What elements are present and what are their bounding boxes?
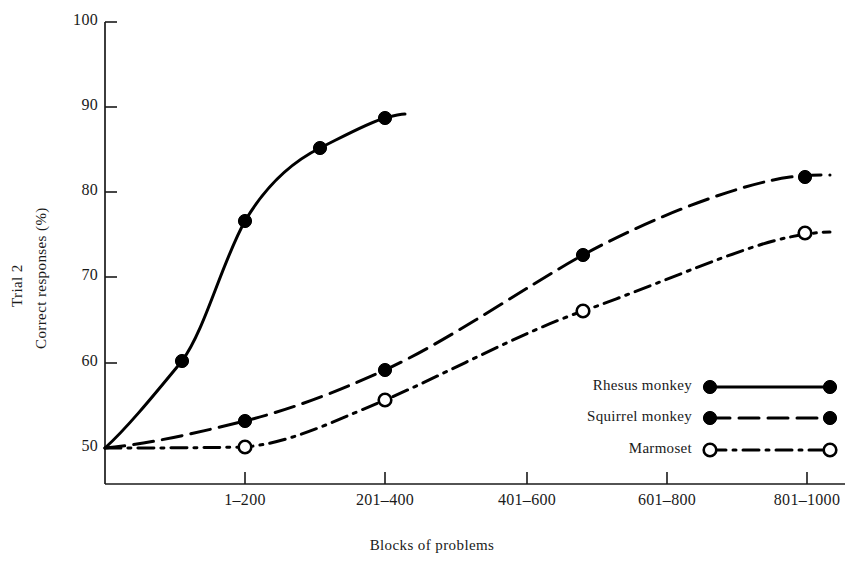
x-tick-label-801-1000: 801–1000 [747,491,858,509]
y-axis-title: Correct responses (%) [33,207,50,349]
legend-label-squirrel-monkey: Squirrel monkey [500,408,692,425]
legend-swatch-marmoset [704,444,837,457]
x-axis-title: Blocks of problems [332,537,532,554]
y-tick-label-50: 50 [58,437,98,455]
x-tick-label-201-400: 201–400 [330,491,440,509]
legend-swatch-squirrel-monkey [703,411,836,424]
legend-label-rhesus-monkey: Rhesus monkey [500,377,692,394]
y-tick-label-80: 80 [58,181,98,199]
x-axis-ticks [245,472,807,484]
legend-swatch-rhesus-monkey [703,380,836,393]
y-axis-title-trial: Trial 2 [9,264,26,307]
y-tick-label-100: 100 [58,11,98,29]
y-axis-ticks [105,22,117,448]
y-tick-label-90: 90 [58,96,98,114]
x-tick-label-1-200: 1–200 [195,491,295,509]
x-tick-label-601-800: 601–800 [612,491,722,509]
chart-figure: 100 90 80 70 60 50 1–200 201–400 401–600… [0,0,858,583]
legend-label-marmoset: Marmoset [500,440,692,457]
y-tick-label-60: 60 [58,352,98,370]
data-markers-rhesus-monkey [175,111,391,367]
y-tick-label-70: 70 [58,266,98,284]
series-line-marmoset [105,232,830,448]
x-tick-label-401-600: 401–600 [472,491,582,509]
series-line-rhesus-monkey [105,114,405,448]
series-line-squirrel-monkey [105,175,830,448]
